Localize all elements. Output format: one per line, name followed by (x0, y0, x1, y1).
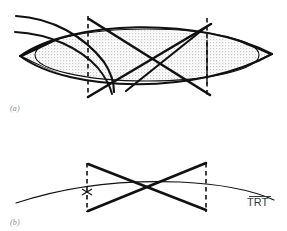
panel-a-group (15, 16, 272, 97)
figure-page: (a) (b) TRT (0, 0, 287, 231)
figure-canvas (0, 0, 287, 231)
panel-label-a: (a) (10, 104, 20, 113)
shallow-arc (16, 182, 274, 203)
trt-text: TRT (247, 196, 268, 208)
trt-annotation: TRT (247, 196, 271, 208)
panel-label-b: (b) (10, 218, 20, 227)
panel-b-group (16, 163, 274, 212)
